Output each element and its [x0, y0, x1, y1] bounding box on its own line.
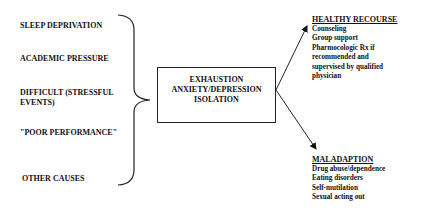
maladaption-item: Eating disorders — [312, 174, 385, 183]
maladaption-item: Drug abuse/dependence — [312, 165, 385, 174]
arrow-maladaption — [276, 90, 316, 149]
box-line-anxiety: ANXIETY/DEPRESSION — [158, 85, 275, 95]
maladaption-item: Self-mutilation — [312, 184, 385, 193]
healthy-item: recommended and — [312, 53, 397, 62]
cause-sleep-deprivation: SLEEP DEPRIVATION — [20, 21, 102, 31]
brace — [118, 15, 150, 185]
box-line-exhaustion: EXHAUSTION — [158, 75, 275, 85]
maladaption-item: Sexual acting out — [312, 193, 385, 202]
cause-other: OTHER CAUSES — [22, 174, 84, 184]
arrow-healthy — [276, 26, 307, 90]
cause-poor-performance: "POOR PERFORMANCE" — [20, 128, 117, 138]
healthy-item: Pharmocologic Rx if — [312, 44, 397, 53]
center-box: EXHAUSTION ANXIETY/DEPRESSION ISOLATION — [157, 67, 276, 123]
healthy-recourse: HEALTHY RECOURSE Counseling Group suppor… — [312, 15, 397, 81]
healthy-item: physician — [312, 72, 397, 81]
cause-difficult-events: DIFFICULT (STRESSFUL — [20, 88, 114, 98]
healthy-title: HEALTHY RECOURSE — [312, 15, 397, 25]
box-line-isolation: ISOLATION — [158, 95, 275, 105]
maladaption: MALADAPTION Drug abuse/dependence Eating… — [312, 155, 385, 203]
healthy-item: supervised by qualified — [312, 63, 397, 72]
maladaption-title: MALADAPTION — [312, 155, 385, 165]
healthy-item: Counseling — [312, 25, 397, 34]
healthy-item: Group support — [312, 34, 397, 43]
cause-difficult-events-cont: EVENTS) — [20, 98, 55, 108]
cause-academic-pressure: ACADEMIC PRESSURE — [20, 54, 109, 64]
